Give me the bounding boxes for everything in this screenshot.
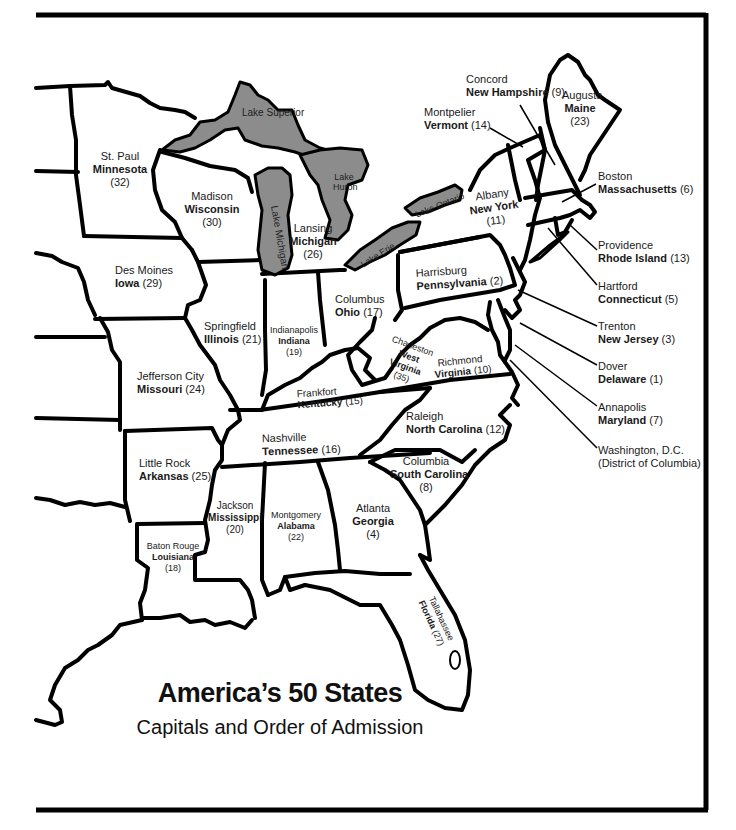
label-ohio: Columbus Ohio (17) xyxy=(335,293,385,319)
capital: Springfield xyxy=(204,320,261,333)
admission-order: (17) xyxy=(363,306,383,318)
state-name: Indiana xyxy=(268,336,320,347)
label-iowa: Des Moines Iowa (29) xyxy=(115,264,173,290)
border-oh-pa xyxy=(395,255,402,320)
border-mo-west xyxy=(100,318,120,430)
capital: Jefferson City xyxy=(137,370,205,383)
capital: Raleigh xyxy=(406,410,505,423)
state-name: New Jersey xyxy=(598,333,659,345)
state-name: Massachusetts xyxy=(598,183,677,195)
label-south-carolina: Columbia South Carolina (8) xyxy=(390,455,462,494)
state-name: Mississippi xyxy=(208,512,262,524)
label-delaware: Dover Delaware (1) xyxy=(598,360,663,386)
state-name: Ohio xyxy=(335,306,360,318)
capital: Columbia xyxy=(390,455,462,468)
label-arkansas: Little Rock Arkansas (25) xyxy=(139,457,211,483)
state-name: Arkansas xyxy=(139,470,189,482)
label-dc: Washington, D.C. (District of Columbia) xyxy=(598,444,701,470)
admission-order: (10) xyxy=(473,363,492,376)
admission-order: (20) xyxy=(208,524,262,536)
label-vermont: Montpelier Vermont (14) xyxy=(424,106,491,132)
label-illinois: Springfield Illinois (21) xyxy=(204,320,261,346)
capital: Columbus xyxy=(335,293,385,306)
admission-order: (1) xyxy=(649,373,662,385)
border-md-va xyxy=(445,318,488,330)
capital: Trenton xyxy=(598,320,675,333)
label-maine: Augusta Maine (23) xyxy=(562,89,598,128)
label-minnesota: St. Paul Minnesota (32) xyxy=(90,150,150,189)
capital: Baton Rouge xyxy=(143,541,203,552)
border-texas-coast xyxy=(36,620,142,725)
admission-order: (21) xyxy=(242,333,262,345)
admission-order: (14) xyxy=(471,119,491,131)
capital: Lansing xyxy=(285,222,341,235)
label-rhode-island: Providence Rhode Island (13) xyxy=(598,239,690,265)
label-missouri: Jefferson City Missouri (24) xyxy=(137,370,205,396)
state-name: Rhode Island xyxy=(598,252,667,264)
border-texas-north xyxy=(36,498,125,507)
state-name: Louisiana xyxy=(143,552,203,563)
label-alabama: Montgomery Alabama (22) xyxy=(266,510,326,543)
lake-superior-label: Lake Superior xyxy=(242,107,292,118)
label-tennessee: Nashville Tennessee (16) xyxy=(262,430,342,459)
admission-order: (29) xyxy=(143,277,163,289)
capital: Augusta xyxy=(562,89,598,102)
admission-order: (22) xyxy=(266,532,326,543)
capital: Montpelier xyxy=(424,106,491,119)
label-wisconsin: Madison Wisconsin (30) xyxy=(182,190,242,229)
admission-order: (19) xyxy=(268,347,320,358)
map-subtitle: Capitals and Order of Admission xyxy=(110,716,450,739)
lake-superior-text: Lake Superior xyxy=(242,107,304,118)
admission-order: (25) xyxy=(192,470,212,482)
border-nh-me xyxy=(548,122,580,195)
capital: St. Paul xyxy=(90,150,150,163)
admission-order: (13) xyxy=(670,252,690,264)
border-north-minnesota xyxy=(36,82,195,118)
lake-okeechobee xyxy=(450,651,460,669)
label-kentucky: Frankfort Kentucky (15) xyxy=(296,384,363,411)
admission-order: (6) xyxy=(680,183,693,195)
capital: Concord xyxy=(466,73,565,86)
state-name: New Hampshire xyxy=(466,86,549,98)
border-iowa-west xyxy=(36,253,95,315)
label-new-jersey: Trenton New Jersey (3) xyxy=(598,320,675,346)
state-name: Connecticut xyxy=(598,293,662,305)
state-name: Wisconsin xyxy=(182,203,242,216)
border-minnesota-west xyxy=(70,86,84,236)
label-louisiana: Baton Rouge Louisiana (18) xyxy=(143,541,203,574)
capital: Jackson xyxy=(208,500,262,512)
border-il-in xyxy=(262,280,266,395)
capital: Little Rock xyxy=(139,457,211,470)
border-ia-mo xyxy=(95,318,185,319)
admission-order: (3) xyxy=(662,333,675,345)
capital: Boston xyxy=(598,170,693,183)
dc-name: Washington, D.C. xyxy=(598,444,701,457)
capital: Dover xyxy=(598,360,663,373)
label-indiana: Indianapolis Indiana (19) xyxy=(268,325,320,358)
long-island xyxy=(530,232,568,262)
state-name: Iowa xyxy=(115,277,139,289)
border-wi-il xyxy=(198,260,262,262)
state-name: North Carolina xyxy=(406,423,482,435)
state-name: Delaware xyxy=(598,373,646,385)
admission-order: (8) xyxy=(390,481,462,494)
state-name: Maine xyxy=(562,102,598,115)
border-gulf-fl xyxy=(285,571,410,577)
border-ar-la xyxy=(138,523,205,524)
label-maryland: Annapolis Maryland (7) xyxy=(598,401,663,427)
border-al-coast xyxy=(268,577,305,595)
state-name: Missouri xyxy=(137,383,182,395)
admission-order: (5) xyxy=(665,293,678,305)
state-name: Maryland xyxy=(598,414,646,426)
admission-order: (2) xyxy=(489,274,503,287)
state-name: Illinois xyxy=(204,333,239,345)
capital: Madison xyxy=(182,190,242,203)
border-dakota-split xyxy=(36,171,78,172)
border-mo-ar xyxy=(125,428,222,445)
capital: Des Moines xyxy=(115,264,173,277)
label-mississippi: Jackson Mississippi (20) xyxy=(208,500,262,536)
state-name: Vermont xyxy=(424,119,468,131)
capital: Montgomery xyxy=(266,510,326,521)
label-georgia: Atlanta Georgia (4) xyxy=(348,502,398,541)
border-ok-line xyxy=(36,418,120,420)
